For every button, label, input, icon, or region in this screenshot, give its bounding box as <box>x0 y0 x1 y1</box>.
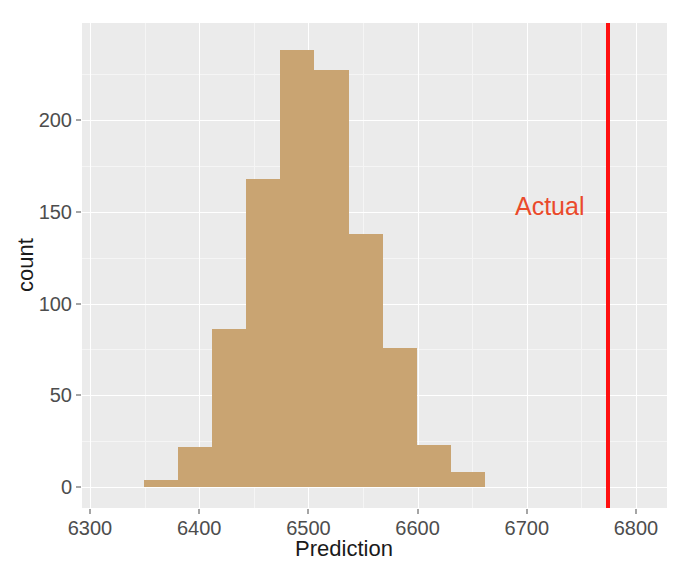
gridline-x-major <box>199 23 200 508</box>
x-tick-mark <box>526 509 527 514</box>
x-tick-label: 6700 <box>505 518 550 538</box>
actual-label: Actual <box>515 192 584 221</box>
histogram-bar <box>383 348 417 487</box>
histogram-bar <box>178 447 212 487</box>
y-tick-label: 150 <box>39 202 72 222</box>
plot-panel: Actual <box>82 23 667 508</box>
y-tick-mark <box>76 120 81 121</box>
x-axis-title: Prediction <box>0 536 688 562</box>
y-tick-mark <box>76 487 81 488</box>
histogram-bar <box>144 480 178 487</box>
y-tick-label: 200 <box>39 110 72 130</box>
gridline-x-minor <box>581 23 582 508</box>
histogram-chart: Actual 050100150200 count 63006400650066… <box>0 0 688 575</box>
gridline-x-major <box>418 23 419 508</box>
gridline-y-minor <box>82 74 667 75</box>
y-tick-label: 100 <box>39 294 72 314</box>
histogram-bar <box>451 472 485 487</box>
gridline-x-major <box>90 23 91 508</box>
x-tick-mark <box>636 509 637 514</box>
actual-line <box>606 23 610 508</box>
histogram-bar <box>212 329 246 487</box>
x-tick-label: 6500 <box>286 518 331 538</box>
gridline-x-major <box>636 23 637 508</box>
x-tick-label: 6800 <box>614 518 659 538</box>
gridline-y-major <box>82 120 667 121</box>
y-tick-mark <box>76 395 81 396</box>
gridline-x-minor <box>472 23 473 508</box>
x-tick-label: 6600 <box>395 518 440 538</box>
gridline-x-major <box>527 23 528 508</box>
gridline-y-minor <box>82 166 667 167</box>
x-tick-label: 6300 <box>68 518 113 538</box>
y-tick-label: 0 <box>61 477 72 497</box>
y-tick-mark <box>76 303 81 304</box>
y-tick-label: 50 <box>50 385 72 405</box>
histogram-bar <box>280 50 314 487</box>
histogram-bar <box>349 234 383 487</box>
y-tick-mark <box>76 211 81 212</box>
histogram-bar <box>246 179 280 487</box>
x-tick-mark <box>308 509 309 514</box>
gridline-y-major <box>82 487 667 488</box>
gridline-x-minor <box>145 23 146 508</box>
histogram-bar <box>417 445 451 487</box>
histogram-bar <box>314 70 348 487</box>
x-tick-mark <box>199 509 200 514</box>
x-tick-mark <box>417 509 418 514</box>
x-tick-label: 6400 <box>177 518 222 538</box>
y-axis-title: count <box>13 225 39 305</box>
x-tick-mark <box>90 509 91 514</box>
